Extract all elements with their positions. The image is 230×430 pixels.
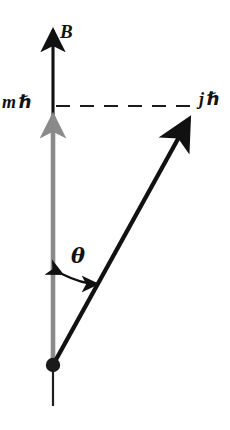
m-hbar-label: m ℏ: [2, 93, 32, 111]
theta-symbol: θ: [71, 243, 85, 268]
vector-diagram: B m ℏ j ℏ θ: [0, 0, 230, 430]
diagram-canvas: [0, 0, 230, 430]
field-axis-label: B: [60, 22, 73, 41]
origin-dot: [46, 358, 60, 372]
field-axis-label-text: B: [60, 21, 73, 42]
m-symbol: m: [2, 92, 16, 112]
theta-angle-arc: [62, 274, 97, 284]
theta-angle-label: θ: [71, 245, 85, 266]
j-hbar-total-vector: [53, 119, 189, 365]
hbar-icon-m: ℏ: [19, 91, 32, 112]
hbar-icon-j: ℏ: [207, 88, 220, 109]
j-hbar-label: j ℏ: [199, 90, 220, 108]
